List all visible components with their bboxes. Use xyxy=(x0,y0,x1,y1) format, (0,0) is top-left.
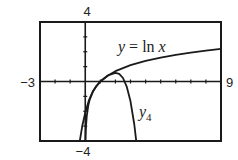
y-max-label: 4 xyxy=(83,4,90,19)
ln-label-mid: = ln xyxy=(125,38,158,55)
x-max-label: 9 xyxy=(226,75,233,90)
chart: 4 −4 −3 9 y = ln x y4 xyxy=(0,0,238,160)
ln-label-x: x xyxy=(158,38,166,55)
y4-label-subscript: 4 xyxy=(146,111,152,123)
x-min-label: −3 xyxy=(20,75,35,90)
ln-curve-label: y = ln x xyxy=(116,38,166,56)
y-min-label: −4 xyxy=(76,144,91,159)
